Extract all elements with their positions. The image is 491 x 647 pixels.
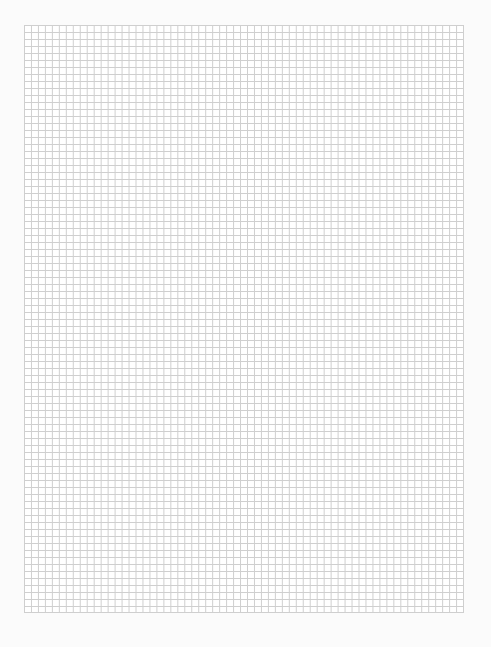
grid-area [24, 25, 464, 613]
graph-paper-page [0, 0, 491, 647]
